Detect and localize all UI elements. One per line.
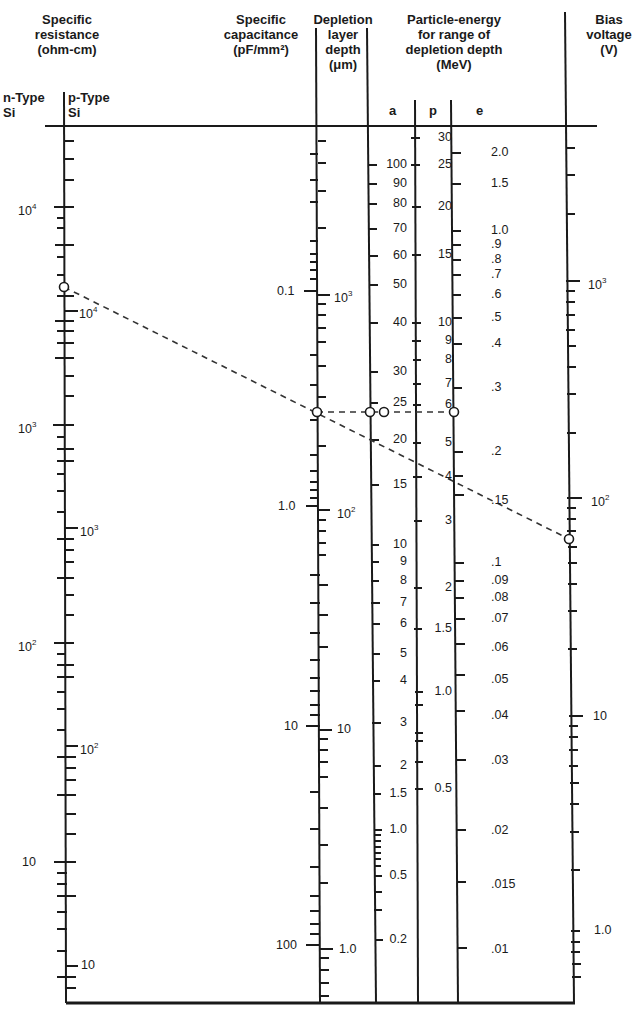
- header-line: depth: [307, 42, 379, 57]
- scale-label: 2: [377, 759, 407, 772]
- header-line: resistance: [12, 27, 122, 42]
- scale-label: .02: [491, 824, 508, 837]
- scale-label: 0.2: [377, 933, 407, 946]
- label-cap-10: 10: [284, 720, 298, 733]
- subheader-a: a: [389, 103, 396, 118]
- scale-label: 5: [377, 647, 407, 660]
- scale-label: .15: [491, 494, 508, 507]
- e-axis: [451, 100, 458, 1003]
- scale-label: 1.5: [422, 622, 452, 635]
- header-line: Bias: [580, 12, 638, 27]
- subheader-line: n-Type: [3, 90, 45, 105]
- scale-label: .06: [491, 641, 508, 654]
- scale-label: 30: [377, 365, 407, 378]
- p-axis: [415, 100, 418, 1003]
- label-cap-100: 100: [276, 939, 297, 952]
- scale-label: .3: [491, 381, 501, 394]
- scale-label: 20: [377, 433, 407, 446]
- scale-label: 1.0: [491, 224, 508, 237]
- label-dep-1e2: 102: [337, 503, 355, 521]
- scale-label: 1.0: [422, 685, 452, 698]
- header-line: Particle-energy: [392, 12, 516, 27]
- scale-label: 6: [377, 617, 407, 630]
- header-line: (pF/mm²): [208, 42, 314, 57]
- capacitance-depletion-axis: [316, 28, 320, 1003]
- scale-label: 9: [377, 555, 407, 568]
- scale-label: .05: [491, 673, 508, 686]
- scale-label: 10: [377, 538, 407, 551]
- label-dep-1e3: 103: [334, 287, 352, 305]
- scale-label: .03: [491, 754, 508, 767]
- label-n-1e4: 104: [18, 200, 36, 218]
- scale-label: 90: [377, 177, 407, 190]
- scale-label: .04: [491, 709, 508, 722]
- header-line: depletion depth: [392, 42, 516, 57]
- label-cap-0.1: 0.1: [277, 285, 294, 298]
- scale-label: 70: [377, 222, 407, 235]
- scale-label: 5: [422, 436, 452, 449]
- subheader-line: Si: [3, 105, 45, 120]
- scale-label: .8: [491, 253, 501, 266]
- label-p-1e3: 103: [80, 521, 98, 539]
- scale-label: 15: [377, 478, 407, 491]
- header-line: (V): [580, 42, 638, 57]
- header-line: (μm): [307, 57, 379, 72]
- scale-label: 6: [422, 398, 452, 411]
- header-capacitance: Specific capacitance (pF/mm²): [208, 12, 314, 57]
- depletion-right-axis: [367, 28, 376, 1003]
- scale-label: .5: [491, 311, 501, 324]
- subheader-line: p-Type: [68, 90, 110, 105]
- scale-label: 2.0: [491, 146, 508, 159]
- scale-label: 15: [422, 248, 452, 261]
- header-depletion: Depletion layer depth (μm): [307, 12, 379, 72]
- label-n-10: 10: [22, 856, 36, 869]
- scale-label: 4: [377, 674, 407, 687]
- scale-label: .6: [491, 288, 501, 301]
- scale-label: 30: [422, 131, 452, 144]
- label-bias-1e2: 102: [591, 491, 609, 509]
- marker-depletion: [313, 408, 322, 417]
- header-particle-energy: Particle-energy for range of depletion d…: [392, 12, 516, 72]
- label-bias-10: 10: [593, 710, 607, 723]
- scale-label: .7: [491, 268, 501, 281]
- nomogram-graphic: [0, 0, 639, 1017]
- header-line: Specific: [208, 12, 314, 27]
- marker-bias: [565, 535, 574, 544]
- scale-label: 7: [377, 596, 407, 609]
- scale-label: 100: [377, 158, 407, 171]
- subheader-line: Si: [68, 105, 110, 120]
- scale-label: 1.0: [377, 823, 407, 836]
- header-line: layer: [307, 27, 379, 42]
- header-line: Depletion: [307, 12, 379, 27]
- scale-label: .07: [491, 612, 508, 625]
- header-line: capacitance: [208, 27, 314, 42]
- label-bias-1e3: 103: [588, 274, 606, 292]
- label-cap-1.0: 1.0: [278, 500, 295, 513]
- scale-label: .01: [491, 943, 508, 956]
- scale-label: 4: [422, 470, 452, 483]
- label-n-1e2: 102: [18, 636, 36, 654]
- header-line: voltage: [580, 27, 638, 42]
- header-line: Specific: [12, 12, 122, 27]
- scale-label: 8: [422, 353, 452, 366]
- header-resistance: Specific resistance (ohm-cm): [12, 12, 122, 57]
- scale-label: 9: [422, 334, 452, 347]
- scale-label: 10: [422, 316, 452, 329]
- label-p-1e2: 102: [80, 739, 98, 757]
- scale-label: .09: [491, 574, 508, 587]
- scale-label: 1.5: [491, 177, 508, 190]
- label-p-1e4: 104: [79, 303, 97, 321]
- scale-label: 3: [377, 716, 407, 729]
- label-dep-10: 10: [337, 723, 351, 736]
- subheader-p: p: [429, 103, 437, 118]
- scale-label: 40: [377, 316, 407, 329]
- scale-label: .08: [491, 591, 508, 604]
- header-line: for range of: [392, 27, 516, 42]
- scale-label: 25: [422, 158, 452, 171]
- scale-label: 8: [377, 574, 407, 587]
- label-bias-1.0: 1.0: [594, 924, 611, 937]
- scale-label: 80: [377, 197, 407, 210]
- marker-a: [366, 408, 375, 417]
- scale-label: .1: [491, 556, 501, 569]
- header-line: (ohm-cm): [12, 42, 122, 57]
